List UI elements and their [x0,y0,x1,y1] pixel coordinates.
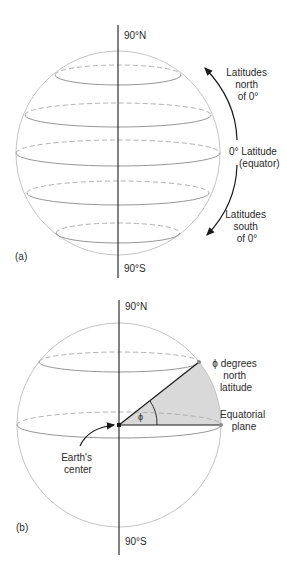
phi-symbol: ϕ [138,412,143,422]
equatorial-plane-label: Equatorial plane [220,409,268,432]
center-arrow-icon [80,425,114,446]
latitude-point-label: ϕ degrees north latitude [212,358,259,393]
arrow-north-icon [205,68,237,140]
panel-b: ϕ 90°N 90°S (b) ϕ degrees north latitude… [16,300,268,555]
panel-label-b: (b) [16,522,28,533]
latitude-point [197,360,201,364]
north-pole-label-b: 90°N [125,301,147,312]
north-pole-label-a: 90°N [124,30,146,41]
earth-center-dot [117,423,121,427]
north-arrow-label: Latitudes north of 0° [226,67,269,102]
equator-point [219,423,223,427]
south-pole-label-a: 90°S [124,263,146,274]
earth-center-label: Earth's center [61,452,95,475]
latitude-diagram: 90°N 90°S (a) Latitudes north of 0° 0° L… [0,0,287,561]
panel-label-a: (a) [15,251,27,262]
panel-a: 90°N 90°S (a) Latitudes north of 0° 0° L… [15,25,280,278]
south-arrow-label: Latitudes south of 0° [225,209,268,244]
south-pole-label-b: 90°S [125,536,147,547]
